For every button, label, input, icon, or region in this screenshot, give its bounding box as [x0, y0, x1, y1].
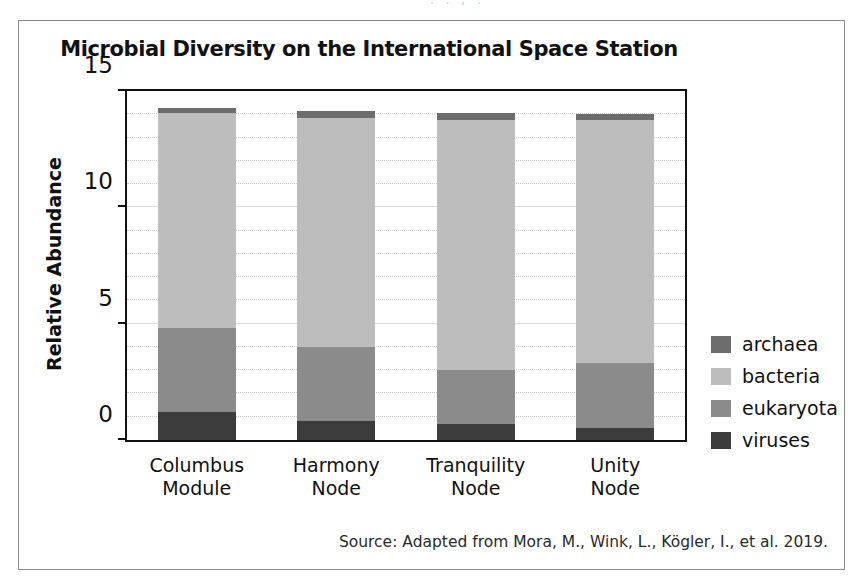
- source-note: Source: Adapted from Mora, M., Wink, L.,…: [339, 533, 828, 551]
- legend-swatch-icon: [711, 400, 731, 417]
- bar-segment-eukaryota[interactable]: [297, 347, 375, 421]
- bar-segment-viruses[interactable]: [158, 412, 236, 440]
- bar-segment-eukaryota[interactable]: [437, 370, 515, 424]
- bar-segment-viruses[interactable]: [437, 424, 515, 440]
- legend-item-eukaryota[interactable]: eukaryota: [711, 392, 838, 424]
- x-axis-tick-label: TranquilityNode: [426, 454, 525, 500]
- y-axis-tick-label: 15: [84, 52, 113, 78]
- legend-swatch-icon: [711, 336, 731, 353]
- bar-group[interactable]: UnityNode: [576, 91, 654, 440]
- bar-group[interactable]: HarmonyNode: [297, 91, 375, 440]
- chart-title: Microbial Diversity on the International…: [19, 37, 719, 61]
- y-axis-tick-label: 10: [84, 168, 113, 194]
- bar-segment-eukaryota[interactable]: [158, 328, 236, 412]
- bar-segment-archaea[interactable]: [158, 108, 236, 113]
- bar-segment-viruses[interactable]: [576, 428, 654, 440]
- y-axis-tick-label: 0: [98, 401, 113, 427]
- bar-segment-bacteria[interactable]: [158, 113, 236, 328]
- bar-group[interactable]: TranquilityNode: [437, 91, 515, 440]
- plot-area: 051015 ColumbusModuleHarmonyNodeTranquil…: [125, 89, 687, 442]
- x-axis-tick-label: ColumbusModule: [149, 454, 244, 500]
- legend-swatch-icon: [711, 368, 731, 385]
- bar-segment-archaea[interactable]: [437, 113, 515, 120]
- bar-segment-bacteria[interactable]: [297, 118, 375, 347]
- figure-container: Microbial Diversity on the International…: [18, 20, 845, 570]
- legend-swatch-icon: [711, 432, 731, 449]
- y-axis-title: Relative Abundance: [41, 89, 67, 438]
- bar-segment-viruses[interactable]: [297, 421, 375, 440]
- legend-item-viruses[interactable]: viruses: [711, 424, 838, 456]
- y-axis-title-label: Relative Abundance: [43, 157, 65, 371]
- bar-segment-bacteria[interactable]: [576, 120, 654, 363]
- y-axis-tick: [118, 89, 127, 91]
- legend-item-label: viruses: [742, 429, 810, 451]
- legend-item-label: bacteria: [742, 365, 820, 387]
- y-axis-tick-label: 5: [98, 285, 113, 311]
- legend-item-label: eukaryota: [742, 397, 838, 419]
- chart-legend: archaeabacteriaeukaryotaviruses: [711, 328, 838, 456]
- legend-item-archaea[interactable]: archaea: [711, 328, 838, 360]
- y-axis-tick: [118, 322, 127, 324]
- bar-group[interactable]: ColumbusModule: [158, 91, 236, 440]
- bar-segment-bacteria[interactable]: [437, 120, 515, 370]
- scan-smudge-text: . . , .: [430, 0, 485, 7]
- x-axis-tick-label: UnityNode: [590, 454, 640, 500]
- x-axis-tick-label: HarmonyNode: [293, 454, 380, 500]
- scan-edge-artifact: . . , .: [0, 0, 867, 18]
- bar-segment-eukaryota[interactable]: [576, 363, 654, 428]
- legend-item-bacteria[interactable]: bacteria: [711, 360, 838, 392]
- legend-item-label: archaea: [742, 333, 819, 355]
- bar-segment-archaea[interactable]: [576, 114, 654, 120]
- y-axis-tick: [118, 438, 127, 440]
- bar-segment-archaea[interactable]: [297, 111, 375, 118]
- y-axis-tick: [118, 205, 127, 207]
